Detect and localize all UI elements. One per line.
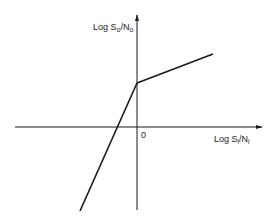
diagram-canvas: Log So/No 0 Log Si/Ni (0, 0, 275, 221)
lower-curve-segment (80, 83, 137, 211)
x-axis-label-main: Log S (214, 134, 238, 144)
origin-label: 0 (141, 131, 146, 140)
diagram-svg (0, 0, 275, 221)
upper-curve-segment (137, 54, 213, 83)
y-axis-label: Log So/No (93, 23, 133, 32)
y-axis-label-main: Log S (93, 22, 117, 32)
origin-label-text: 0 (141, 130, 146, 140)
y-axis-label-sub2: o (129, 26, 133, 33)
x-axis-label-mid: /N (239, 134, 248, 144)
x-axis-label-sub2: i (248, 138, 250, 145)
x-axis-label: Log Si/Ni (214, 135, 250, 144)
